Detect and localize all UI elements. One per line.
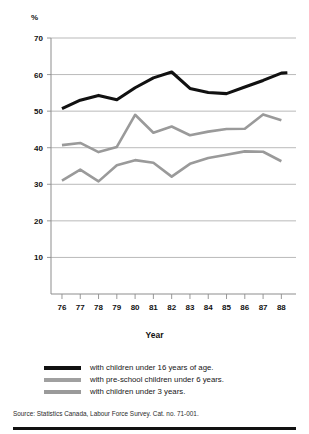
- series-line-1: [62, 114, 281, 152]
- bottom-rule-divider: [13, 427, 296, 430]
- x-tick-label: 77: [76, 303, 85, 311]
- y-tick-label: 50: [34, 107, 43, 116]
- x-tick-label: 83: [186, 303, 195, 311]
- legend-item-label: with children under 3 years.: [90, 386, 185, 398]
- y-tick-label: 30: [34, 180, 43, 189]
- chart-legend: with children under 16 years of age.with…: [44, 362, 294, 398]
- x-tick-label: 87: [259, 303, 268, 311]
- legend-item: with pre-school children under 6 years.: [44, 374, 294, 386]
- x-tick-label: 79: [112, 303, 121, 311]
- chart-svg: 10203040506070 7677787980818283848586878…: [0, 26, 309, 311]
- y-tick-label: 70: [34, 34, 43, 43]
- series-line-0: [62, 72, 287, 109]
- y-axis-tick-labels: 10203040506070: [34, 34, 43, 262]
- x-tick-label: 88: [277, 303, 286, 311]
- x-axis-tick-labels: 76777879808182838485868788: [58, 303, 287, 311]
- legend-swatch-icon: [44, 390, 81, 394]
- legend-swatch-icon: [44, 366, 81, 370]
- plot-area: 10203040506070 7677787980818283848586878…: [0, 26, 309, 311]
- source-note: Source: Statistics Canada, Labour Force …: [13, 410, 199, 417]
- x-axis-title: Year: [0, 330, 309, 340]
- x-tick-label: 76: [58, 303, 67, 311]
- legend-item-label: with pre-school children under 6 years.: [90, 374, 224, 386]
- legend-item: with children under 16 years of age.: [44, 362, 294, 374]
- chart-figure: % 10203040506070 76777879808182838485868…: [0, 0, 309, 434]
- y-tick-label: 60: [34, 71, 43, 80]
- y-axis-tickmarks: [47, 38, 51, 257]
- x-tick-label: 81: [149, 303, 158, 311]
- x-tick-label: 85: [222, 303, 231, 311]
- series-line-2: [62, 151, 281, 181]
- x-tick-label: 84: [204, 303, 213, 311]
- x-tick-label: 80: [131, 303, 140, 311]
- x-axis-tickmarks: [62, 294, 281, 299]
- x-tick-label: 78: [94, 303, 103, 311]
- x-tick-label: 86: [240, 303, 249, 311]
- y-tick-label: 20: [34, 217, 43, 226]
- data-series: [62, 72, 287, 181]
- legend-item: with children under 3 years.: [44, 386, 294, 398]
- legend-item-label: with children under 16 years of age.: [90, 362, 214, 374]
- y-tick-label: 10: [34, 253, 43, 262]
- legend-swatch-icon: [44, 378, 81, 382]
- y-axis-unit-label: %: [31, 13, 38, 22]
- x-tick-label: 82: [167, 303, 176, 311]
- y-tick-label: 40: [34, 144, 43, 153]
